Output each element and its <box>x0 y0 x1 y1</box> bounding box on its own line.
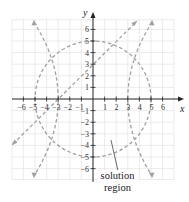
y-tick-label: −2 <box>80 118 89 127</box>
annotation-line2: region <box>104 182 132 193</box>
x-tick-label: 4 <box>138 103 142 112</box>
x-tick-label: 5 <box>149 103 153 112</box>
y-tick-label: 2 <box>85 72 89 81</box>
y-tick-label: 4 <box>85 49 89 58</box>
x-tick-label: −5 <box>29 103 38 112</box>
y-tick-label: −6 <box>80 165 89 174</box>
y-axis-arrow-icon <box>91 12 96 18</box>
annotation-line1: solution <box>101 170 136 181</box>
graph: −6 −5 −4 −3 −2 −1 1 2 3 4 5 6 6 5 4 3 2 … <box>0 0 189 202</box>
y-tick-label: 5 <box>85 37 89 46</box>
x-axis-label: x <box>179 103 185 114</box>
x-tick-label: 3 <box>126 103 130 112</box>
x-axis-arrow-icon <box>178 97 184 102</box>
y-tick-label: 6 <box>85 25 89 34</box>
y-axis-label: y <box>82 7 88 18</box>
y-tick-label: −4 <box>80 141 89 150</box>
y-tick-label: 1 <box>85 83 89 92</box>
annotation-pointer <box>111 140 118 171</box>
x-tick-label: −4 <box>40 103 49 112</box>
x-tick-label: 6 <box>161 103 165 112</box>
line-curve <box>13 22 136 144</box>
x-tick-label: 1 <box>103 103 107 112</box>
y-tick-label: −3 <box>80 130 89 139</box>
y-tick-label: −5 <box>80 153 89 162</box>
x-tick-label: −6 <box>17 103 26 112</box>
x-tick-label: 2 <box>115 103 119 112</box>
x-tick-label: −2 <box>64 103 73 112</box>
y-tick-label: −1 <box>80 107 89 116</box>
y-tick-label: 3 <box>85 60 89 69</box>
x-tick-label: −3 <box>52 103 61 112</box>
